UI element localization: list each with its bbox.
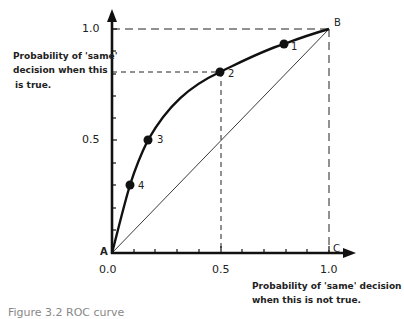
corner-label-b: B [334, 17, 341, 28]
point-label-4: 4 [138, 180, 144, 191]
y-axis-label-line2: decision when this [13, 64, 108, 77]
x-axis-arrow [343, 248, 356, 258]
corner-label-a: A [100, 246, 108, 257]
data-point-3 [144, 136, 153, 145]
x-axis-label-line1: Probability of 'same' decision [252, 280, 402, 293]
y-axis-arrow [107, 9, 117, 22]
x-tick-0: 0.0 [99, 263, 117, 276]
x-tick-1: 1.0 [320, 263, 338, 276]
y-axis-label-line1: Probability of 'same' [13, 50, 117, 63]
corner-label-c: C [333, 243, 340, 254]
point-label-3: 3 [157, 134, 163, 145]
y-axis-label-line3: is true. [15, 79, 51, 92]
data-point-1 [280, 40, 289, 49]
point-label-1: 1 [291, 41, 297, 52]
x-axis-label-line2: when this is not true. [252, 294, 361, 307]
data-point-2 [216, 68, 225, 77]
point-label-2: 2 [228, 68, 234, 79]
x-tick-05: 0.5 [212, 263, 230, 276]
figure-caption: Figure 3.2 ROC curve [8, 306, 124, 319]
y-tick-1: 1.0 [82, 22, 100, 35]
data-point-4 [126, 181, 135, 190]
y-tick-05: 0.5 [82, 133, 100, 146]
